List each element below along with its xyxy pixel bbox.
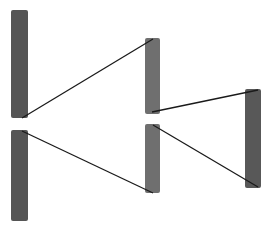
links-layer xyxy=(0,0,272,229)
link-l2-m2 xyxy=(22,131,153,193)
link-m2-r1 xyxy=(153,125,258,187)
link-l1-m1 xyxy=(22,39,153,118)
link-m1-r1 xyxy=(152,90,258,112)
